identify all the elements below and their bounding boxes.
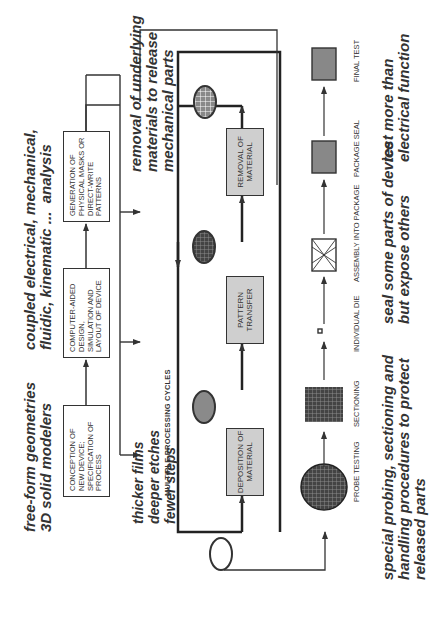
note-freeform: free-form geometries 3D solid modelers bbox=[22, 382, 54, 532]
cad-box: COMPUTER-AIDED DESIGN, SIMULATION AND LA… bbox=[63, 268, 110, 358]
probe-label: PROBE TESTING bbox=[352, 441, 361, 502]
note-coupled: coupled electrical, mechanical, fluidic,… bbox=[22, 129, 54, 350]
note-seal: seal some parts of device but expose oth… bbox=[380, 141, 412, 324]
sectioned-wafer-icon bbox=[305, 387, 343, 422]
note-thicker: thicker films deeper etches fewer steps bbox=[130, 430, 178, 524]
note-test: test more than electrical function bbox=[380, 34, 412, 162]
deposition-box: DEPOSITION OF MATERIAL bbox=[226, 428, 264, 496]
die-label: INDIVIDUAL DIE bbox=[352, 296, 361, 352]
masks-text: GENERATION OF PHYSICAL MASKS OR DIRECT-W… bbox=[69, 137, 103, 216]
sectioning-label: SECTIONING bbox=[352, 380, 361, 427]
note-probing: special probing, sectioning and handling… bbox=[380, 355, 428, 580]
conception-text: CONCEPTION OF NEW DEVICE; SPECIFICATION … bbox=[69, 411, 103, 491]
removal-box: REMOVAL OF MATERIAL bbox=[226, 128, 264, 196]
removal-text: REMOVAL OF MATERIAL bbox=[236, 129, 255, 195]
mems-process-diagram: CONCEPTION OF NEW DEVICE; SPECIFICATION … bbox=[0, 0, 444, 642]
masks-box: GENERATION OF PHYSICAL MASKS OR DIRECT-W… bbox=[63, 131, 110, 222]
seal-label: PACKAGE SEAL bbox=[352, 120, 361, 177]
assembly-label: ASSEMBLY INTO PACKAGE bbox=[352, 185, 361, 282]
deposition-text: DEPOSITION OF MATERIAL bbox=[236, 429, 255, 495]
pattern-box: PATTERN TRANSFER bbox=[226, 276, 264, 344]
pattern-text: PATTERN TRANSFER bbox=[236, 277, 255, 343]
cad-text: COMPUTER-AIDED DESIGN, SIMULATION AND LA… bbox=[69, 274, 103, 352]
note-removal: removal of underlying materials to relea… bbox=[128, 15, 176, 172]
conception-box: CONCEPTION OF NEW DEVICE; SPECIFICATION … bbox=[63, 405, 110, 497]
final-label: FINAL TEST bbox=[352, 40, 361, 82]
